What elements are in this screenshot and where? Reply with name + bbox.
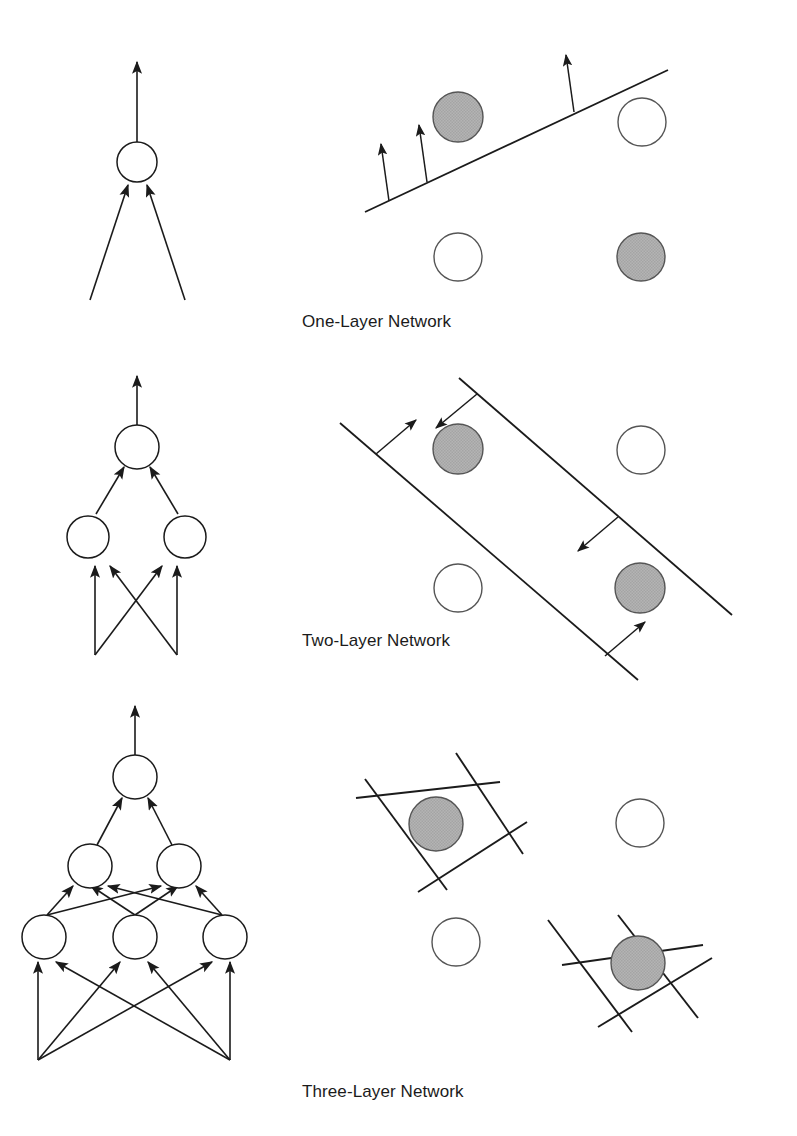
two-layer-network-graph <box>67 376 206 655</box>
one-layer-network-graph <box>90 62 185 300</box>
three-layer-hidden1-unit-1 <box>22 915 66 959</box>
one-layer-normal-arrow-2 <box>419 125 427 182</box>
three-layer-in2-to-h1b-arrow <box>148 962 230 1060</box>
caption-two-layer-network: Two-Layer Network <box>302 631 450 651</box>
three-layer-h1a-to-h2b-arrow <box>47 886 161 915</box>
two-layer-point-class-a-top-right <box>617 426 665 474</box>
one-layer-input-arrow-1 <box>90 185 128 300</box>
three-layer-h1c-to-h2a-arrow <box>108 886 222 915</box>
three-layer-hidden1-unit-3 <box>203 915 247 959</box>
two-layer-normal-arrow-4 <box>605 622 645 656</box>
one-layer-boundary-line <box>365 70 668 212</box>
two-layer-output-unit <box>115 425 159 469</box>
three-layer-hidden2-unit-1 <box>68 844 112 888</box>
three-layer-hidden1-unit-2 <box>113 915 157 959</box>
one-layer-point-class-a-top-right <box>618 98 666 146</box>
three-layer-point-class-b-top-left <box>409 797 463 851</box>
two-layer-point-class-a-bottom-left <box>434 564 482 612</box>
two-layer-input2-to-hidden1-arrow <box>110 566 177 655</box>
three-layer-in2-to-h1a-arrow <box>56 962 230 1060</box>
two-layer-normal-arrow-2 <box>436 394 477 428</box>
two-layer-hidden-unit-1 <box>67 516 109 558</box>
three-layer-point-class-a-bottom-left <box>432 918 480 966</box>
two-layer-hidden2-to-output-arrow <box>150 467 178 514</box>
two-layer-normal-arrow-1 <box>376 420 416 454</box>
figure-root: One-Layer Network Two-Layer Network Thre… <box>0 0 797 1136</box>
three-layer-h1c-to-h2b-arrow <box>196 886 222 915</box>
three-layer-output-unit <box>113 755 157 799</box>
three-layer-hidden2a-to-output-arrow <box>97 798 122 845</box>
two-layer-input1-to-hidden2-arrow <box>95 566 162 655</box>
two-layer-hidden-unit-2 <box>164 516 206 558</box>
three-layer-hidden2b-to-output-arrow <box>148 798 172 845</box>
one-layer-output-unit <box>117 142 157 182</box>
caption-one-layer-network: One-Layer Network <box>302 312 451 332</box>
three-layer-point-class-a-top-right <box>616 799 664 847</box>
three-layer-point-class-b-bottom-right <box>611 936 665 990</box>
three-layer-in1-to-h1b-arrow <box>38 962 120 1060</box>
two-layer-boundary-line-2 <box>459 378 732 615</box>
three-layer-upper-boundary-line-3 <box>456 753 523 854</box>
diagram-canvas <box>0 0 797 1136</box>
two-layer-point-class-b-bottom-right <box>615 563 665 613</box>
three-layer-decision-region <box>356 753 712 1032</box>
one-layer-input-arrow-2 <box>147 185 185 300</box>
one-layer-point-class-b-top-left <box>433 92 483 142</box>
one-layer-point-class-a-bottom-left <box>434 233 482 281</box>
two-layer-point-class-b-top-left <box>433 424 483 474</box>
two-layer-normal-arrow-3 <box>578 517 618 551</box>
three-layer-hidden2-unit-2 <box>157 844 201 888</box>
one-layer-point-class-b-bottom-right <box>617 233 665 281</box>
three-layer-network-graph <box>22 706 247 1060</box>
three-layer-h1b-to-h2a-arrow <box>91 886 135 915</box>
caption-three-layer-network: Three-Layer Network <box>302 1082 464 1102</box>
two-layer-hidden1-to-output-arrow <box>96 467 124 514</box>
one-layer-normal-arrow-1 <box>381 144 389 201</box>
three-layer-in1-to-h1c-arrow <box>38 962 212 1060</box>
one-layer-decision-region <box>365 55 668 281</box>
three-layer-h1a-to-h2a-arrow <box>47 886 73 915</box>
one-layer-normal-arrow-3 <box>566 55 574 112</box>
